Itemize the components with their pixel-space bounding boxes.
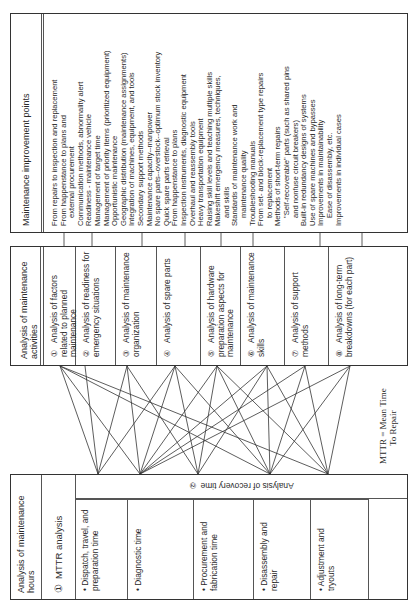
improvement-item: Improvements in individual cases	[335, 18, 344, 226]
improvement-list: From repairs to inspection and replaceme…	[51, 18, 343, 226]
recovery-item: • Diagnostic time	[128, 499, 194, 599]
hours-box-title: Analysis of maintenance hours	[11, 475, 42, 599]
recovery-item: • Dispatch, travel, and preparation time	[75, 499, 128, 599]
activity-list: ①Analysis of factors related to planned …	[44, 247, 407, 365]
recovery-items: • Dispatch, travel, and preparation time…	[75, 499, 407, 599]
activity-item-4: ④Analysis of spare parts	[157, 247, 201, 365]
activity-item-5: ⑤Analysis of hardware preparation aspect…	[201, 247, 241, 365]
recovery-item: • Procurement and fabrication time	[194, 499, 254, 599]
recovery-item: • Adjustment and tryouts	[311, 499, 369, 599]
activity-item-1: ①Analysis of factors related to planned …	[44, 247, 76, 365]
maintenance-activities-box: Analysis of maintenance activities ①Anal…	[10, 246, 408, 366]
diagram-rotated-canvas: Analysis of maintenance hours ① MTTR ana…	[0, 0, 418, 604]
activity-item-3: ③Analysis of maintenance organization	[116, 247, 157, 365]
mttr-label: MTTR analysis	[53, 516, 64, 579]
activity-item-6: ⑥Analysis of maintenance skills	[241, 247, 285, 365]
improvement-box-title: Maintenance improvement points	[11, 14, 42, 232]
activity-item-7: ⑦Analysis of support methods	[285, 247, 329, 365]
mttr-analysis-row: ① MTTR analysis	[41, 475, 76, 599]
improvement-points-box: Maintenance improvement points From repa…	[10, 13, 408, 233]
maintenance-hours-box: Analysis of maintenance hours ① MTTR ana…	[10, 474, 408, 600]
mttr-number: ①	[53, 579, 64, 593]
activities-box-title: Analysis of maintenance activities	[11, 247, 41, 365]
activity-item-2: ②Analysis of readiness for emergency sit…	[76, 247, 116, 365]
recovery-item: • Disassembly and repair	[254, 499, 311, 599]
recovery-time-strip: Analysis of recovery time ②	[75, 475, 407, 499]
mttr-definition-note: MTTR = Mean Time To Repair	[378, 388, 398, 464]
activity-item-8: ⑧Analysis of long-term breakdowns (for e…	[329, 247, 371, 365]
recovery-time-label: Analysis of recovery time ②	[188, 482, 293, 492]
